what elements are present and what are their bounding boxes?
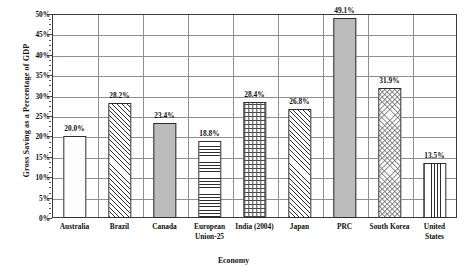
bars-layer: 20.0%28.2%23.4%18.8%28.4%26.8%49.1%31.9%… [52,14,457,218]
x-axis-tick-labels: AustraliaBrazilCanadaEuropeanUnion-25Ind… [52,222,457,252]
y-axis-minor-tick [49,167,51,168]
x-axis-title: Economy [0,256,467,265]
y-axis-minor-tick [49,55,51,56]
bar-value-label: 13.5% [424,151,444,160]
y-axis-minor-tick [49,121,51,122]
x-axis-category-label: PRC [322,222,367,232]
y-axis-minor-tick [49,34,51,35]
y-axis-minor-tick [49,177,51,178]
x-axis-category-label-line: South Korea [367,222,412,232]
x-axis-category-label-line: States [412,232,457,242]
y-axis-minor-tick [49,126,51,127]
x-axis-category-label-line: Australia [52,222,97,232]
y-axis-minor-tick [49,101,51,102]
y-axis-minor-tick [49,85,51,86]
y-axis-minor-tick [49,106,51,107]
x-axis-category-label: India (2004) [232,222,277,232]
x-axis-category-label: Brazil [97,222,142,232]
y-axis-minor-tick [49,40,51,41]
x-axis-category-label-line: Union-25 [187,232,232,242]
y-axis-minor-tick [49,142,51,143]
y-axis-minor-tick [49,24,51,25]
bar[interactable] [333,18,356,218]
y-axis-minor-tick [49,116,51,117]
x-axis-category-label: Canada [142,222,187,232]
y-axis-minor-tick [49,218,51,219]
y-axis-minor-tick [49,162,51,163]
bar-value-label: 23.4% [154,111,174,120]
bar-value-label: 18.8% [199,129,219,138]
bar-slot: 18.8% [187,14,232,218]
y-axis-minor-tick [49,152,51,153]
bar-value-label: 31.9% [379,76,399,85]
bar-chart: Gross Saving as a Percentage of GDP 0%5%… [0,0,467,275]
bar[interactable] [288,109,311,218]
y-axis-minor-tick [49,60,51,61]
y-axis-minor-tick [49,75,51,76]
x-axis-category-label-line: United [412,222,457,232]
bar-value-label: 20.0% [64,124,84,133]
y-axis-minor-tick [49,14,51,15]
y-axis-minor-tick [49,19,51,20]
bar-slot: 23.4% [142,14,187,218]
y-axis-minor-tick [49,80,51,81]
bar-value-label: 26.8% [289,97,309,106]
y-axis-minor-tick [49,147,51,148]
bar[interactable] [423,163,446,218]
x-axis-category-label: Japan [277,222,322,232]
bar-slot: 28.2% [97,14,142,218]
y-axis-minor-tick [49,213,51,214]
bar-slot: 20.0% [52,14,97,218]
y-axis-minor-tick [49,193,51,194]
x-axis-category-label: UnitedStates [412,222,457,241]
bar-value-label: 28.2% [109,91,129,100]
y-axis-minor-tick [49,198,51,199]
x-axis-category-label-line: PRC [322,222,367,232]
x-axis-category-label: EuropeanUnion-25 [187,222,232,241]
bar[interactable] [198,141,221,218]
x-axis-category-label-line: European [187,222,232,232]
y-axis-minor-tick [49,111,51,112]
y-axis-minor-tick [49,172,51,173]
y-axis-minor-tick [49,96,51,97]
y-axis-minor-tick [49,45,51,46]
x-axis-category-label-line: Japan [277,222,322,232]
y-axis-minor-tick [49,208,51,209]
bar[interactable] [108,103,131,218]
bar-slot: 13.5% [412,14,457,218]
y-axis-minor-tick [49,157,51,158]
bar[interactable] [153,123,176,218]
y-axis-minor-tick [49,203,51,204]
x-axis-category-label: South Korea [367,222,412,232]
y-axis-minor-tick [49,50,51,51]
x-axis-category-label-line: Canada [142,222,187,232]
y-axis-minor-tick [49,65,51,66]
bar[interactable] [378,88,401,218]
bar-slot: 26.8% [277,14,322,218]
bar[interactable] [243,102,266,218]
y-axis-minor-tick [49,136,51,137]
y-axis-minor-tick [49,131,51,132]
x-axis-category-label: Australia [52,222,97,232]
bar-value-label: 28.4% [244,90,264,99]
y-axis-minor-tick [49,91,51,92]
y-axis-minor-tick [49,187,51,188]
bar-value-label: 49.1% [334,6,354,15]
y-axis-minor-tick [49,182,51,183]
y-axis-minor-tick [49,29,51,30]
y-axis-minor-tick [49,70,51,71]
bar[interactable] [63,136,86,218]
bar-slot: 28.4% [232,14,277,218]
x-axis-category-label-line: India (2004) [232,222,277,232]
bar-slot: 49.1% [322,14,367,218]
bar-slot: 31.9% [367,14,412,218]
x-axis-category-label-line: Brazil [97,222,142,232]
